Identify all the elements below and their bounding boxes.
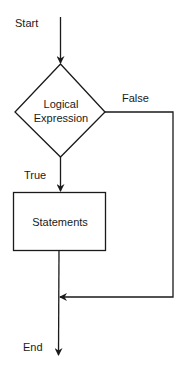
- statements-text: Statements: [14, 215, 106, 229]
- start-label: Start: [15, 17, 38, 30]
- end-label: End: [23, 341, 43, 354]
- true-label: True: [24, 169, 46, 182]
- flowchart-canvas: [0, 0, 178, 366]
- decision-text-line2: Expression: [25, 111, 97, 125]
- end-arrow: [59, 251, 60, 355]
- false-label: False: [122, 92, 149, 105]
- decision-text-line1: Logical: [25, 97, 97, 111]
- decision-text: Logical Expression: [25, 97, 97, 125]
